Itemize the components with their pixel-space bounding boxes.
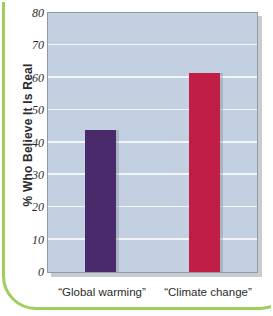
y-tick-0: 0 (2, 265, 44, 280)
x-axis-label-climate-change: “Climate change” (133, 286, 273, 298)
bar-chart: 01020304050607080 % Who Believe It Is Re… (0, 0, 273, 316)
gridline (48, 76, 257, 78)
bar-global-warming[interactable] (85, 130, 116, 272)
bar-climate-change[interactable] (189, 73, 220, 272)
chart-figure: 01020304050607080 % Who Believe It Is Re… (0, 0, 273, 316)
y-tick-80: 80 (2, 6, 44, 21)
y-axis-title: % Who Believe It Is Real (21, 35, 35, 235)
gridline (48, 44, 257, 46)
gridline (48, 238, 257, 240)
gridline (48, 173, 257, 175)
gridline (48, 206, 257, 208)
gridline (48, 141, 257, 143)
gridline (48, 109, 257, 111)
plot-area (47, 12, 258, 273)
